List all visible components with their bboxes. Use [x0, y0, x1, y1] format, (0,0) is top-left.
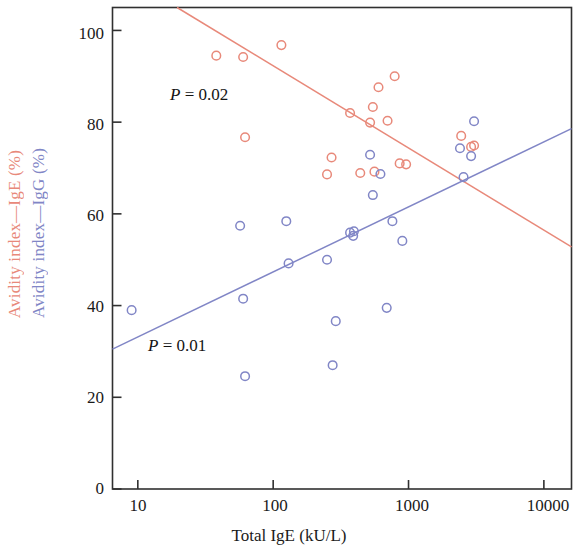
data-point-ige [277, 41, 286, 50]
trend-line-ige [177, 8, 571, 247]
data-point-igg [456, 144, 465, 153]
y-tick-label-20: 20 [52, 388, 104, 408]
y-tick-label-60: 60 [52, 206, 104, 226]
x-tick-label-10: 10 [103, 496, 173, 516]
data-point-ige [390, 72, 399, 81]
annotation-p-value-igg: P = 0.01 [148, 336, 206, 356]
data-point-ige [356, 169, 365, 178]
data-point-igg [369, 191, 378, 200]
y-tick-label-80: 80 [52, 115, 104, 135]
data-point-igg [236, 221, 245, 230]
y-tick-label-0: 0 [52, 479, 104, 499]
x-tick-label-1000: 1000 [377, 496, 447, 516]
annotation-p-value-ige: P = 0.02 [170, 85, 228, 105]
data-point-igg [382, 304, 391, 313]
x-tick-label-100: 100 [240, 496, 310, 516]
data-point-igg [127, 306, 136, 315]
data-point-ige [470, 141, 479, 150]
data-point-ige [212, 51, 221, 60]
data-point-ige [323, 170, 332, 179]
y-tick-label-40: 40 [52, 297, 104, 317]
data-point-igg [470, 117, 479, 126]
trend-lines [113, 8, 572, 350]
data-point-igg [323, 255, 332, 264]
data-point-ige [327, 153, 336, 162]
data-point-ige [374, 83, 383, 92]
data-point-igg [331, 317, 340, 326]
p-symbol-ige: P [170, 85, 180, 104]
p-value-igg: = 0.01 [158, 336, 206, 355]
data-point-igg [328, 361, 337, 370]
plot-frame [113, 8, 572, 490]
p-value-ige: = 0.02 [180, 85, 228, 104]
x-tick-label-10000: 10000 [513, 496, 578, 516]
x-axis-title: Total IgE (kU/L) [0, 526, 578, 546]
y-axis-title-igg: Avidity index—IgG (%) [30, 148, 47, 318]
y-tick-label-100: 100 [52, 24, 104, 44]
plot-area [0, 0, 578, 557]
data-point-ige [239, 53, 248, 62]
data-point-igg [282, 217, 291, 226]
data-point-igg [366, 150, 375, 159]
data-point-ige [383, 116, 392, 125]
data-point-igg [388, 217, 397, 226]
scatter-plot-figure: Avidity index—IgE (%) Avidity index—IgG … [0, 0, 578, 557]
y-axis-title-ige: Avidity index—IgE (%) [6, 150, 23, 318]
data-point-ige [241, 133, 250, 142]
data-point-igg [467, 152, 476, 161]
data-point-igg [398, 237, 407, 246]
p-symbol-igg: P [148, 336, 158, 355]
trend-line-igg [113, 129, 572, 350]
data-point-ige [369, 103, 378, 112]
data-point-ige [457, 132, 466, 141]
data-point-igg [241, 372, 250, 381]
data-point-igg [239, 294, 248, 303]
